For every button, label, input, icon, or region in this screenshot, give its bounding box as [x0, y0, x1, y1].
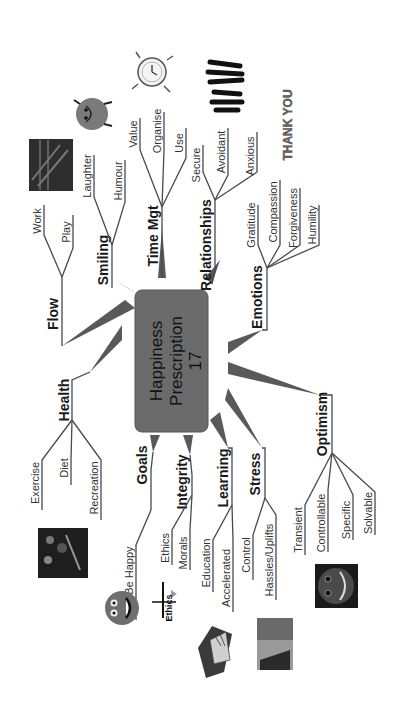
branch-label-time-mgt: Time Mgt	[145, 205, 161, 267]
leaf-control: Control	[240, 537, 252, 572]
flow-photo	[29, 139, 73, 191]
trunk-flow	[62, 300, 135, 346]
branch-integrity[interactable]: Integrity Ethics Morals	[159, 454, 192, 570]
branch-label-optimism: Optimism	[314, 392, 330, 457]
leaf-morals: Morals	[177, 536, 189, 570]
leaf-diet: Diet	[58, 458, 70, 478]
ethics-scales-icon: Ethics	[152, 582, 177, 622]
branch-smiling[interactable]: Smiling Laughter Humour	[81, 154, 125, 288]
trunk-goals	[150, 435, 160, 452]
people-silhouettes-icon	[208, 62, 242, 110]
trunk-emotions	[228, 330, 262, 354]
leaf-anxious: Anxious	[244, 136, 256, 176]
leaf-compassion: Compassion	[267, 181, 279, 242]
leaf-play: Play	[60, 221, 72, 243]
happy-face-icon	[105, 591, 139, 625]
branch-health[interactable]: Health Exercise Diet Recreation	[29, 372, 101, 520]
leaf-secure: Secure	[190, 148, 202, 183]
leaf-education: Education	[200, 539, 212, 588]
branch-label-relationships: Relationships	[198, 199, 214, 291]
leaf-solvable: Solvable	[362, 492, 374, 534]
smiley-character-icon	[74, 98, 112, 130]
svg-text:Ethics: Ethics	[164, 594, 174, 621]
center-node[interactable]: Happiness Prescription 17	[135, 290, 208, 432]
center-line-3: 17	[186, 352, 205, 371]
leaf-accelerated: Accelerated	[220, 549, 232, 607]
leaf-exercise: Exercise	[29, 462, 41, 504]
branch-stress[interactable]: Stress Control Hassles/Uplifts	[240, 448, 276, 600]
graduation-books-icon	[198, 626, 232, 678]
trunk-stress	[225, 388, 262, 448]
branch-optimism[interactable]: Optimism Transient Controllable Specific…	[292, 392, 375, 555]
leaf-forgiveness: Forgiveness	[287, 188, 299, 248]
branch-time-mgt[interactable]: Time Mgt Value Organise Use	[127, 109, 186, 278]
trunk-optimism	[228, 362, 320, 395]
leaf-avoidant: Avoidant	[215, 131, 227, 174]
trunk-learning	[210, 412, 228, 448]
thank-you-art-icon: THANK YOU	[281, 89, 295, 160]
svg-text:THANK YOU: THANK YOU	[281, 89, 295, 160]
smiling-face-dark-icon	[315, 564, 358, 608]
leaf-use: Use	[173, 133, 185, 153]
branch-label-flow: Flow	[45, 298, 61, 330]
center-line-1: Happiness	[147, 321, 166, 401]
leaf-ethics: Ethics	[159, 533, 171, 563]
leaf-humility: Humility	[306, 205, 318, 245]
leaf-controllable: Controllable	[315, 494, 327, 553]
leaf-value: Value	[127, 120, 139, 147]
trunk-integrity	[183, 435, 193, 455]
leaf-organise: Organise	[151, 109, 163, 154]
branch-label-integrity: Integrity	[174, 454, 190, 509]
branch-flow[interactable]: Flow Work Play	[31, 205, 73, 346]
mind-map: Happiness Prescription 17 Flow Work Play…	[0, 0, 399, 719]
leaf-hassles-uplifts: Hassles/Uplifts	[263, 523, 275, 596]
leaf-laughter: Laughter	[81, 154, 93, 198]
leaf-transient: Transient	[292, 507, 304, 552]
branch-label-health: Health	[56, 379, 72, 422]
branch-learning[interactable]: Learning Education Accelerated	[200, 448, 233, 612]
leaf-work: Work	[31, 208, 43, 234]
leaf-specific: Specific	[340, 500, 352, 539]
trunk-health	[90, 325, 122, 372]
center-line-2: Prescription	[167, 316, 186, 406]
branch-label-stress: Stress	[247, 452, 263, 495]
leaf-gratitude: Gratitude	[245, 202, 257, 247]
food-photo	[38, 528, 88, 578]
clock-cartoon-icon	[132, 52, 173, 92]
branch-label-goals: Goals	[134, 445, 150, 484]
branch-label-smiling: Smiling	[95, 235, 111, 286]
leaf-recreation: Recreation	[88, 461, 100, 514]
leaf-humour: Humour	[112, 161, 124, 200]
branch-label-emotions: Emotions	[249, 265, 265, 329]
branch-label-learning: Learning	[215, 448, 231, 507]
branch-emotions[interactable]: Emotions Gratitude Compassion Forgivenes…	[245, 180, 319, 330]
stress-photo	[257, 618, 293, 670]
